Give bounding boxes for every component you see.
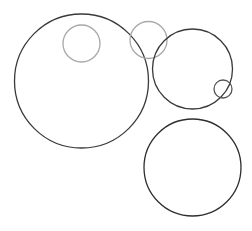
circles-diagram <box>0 0 252 231</box>
